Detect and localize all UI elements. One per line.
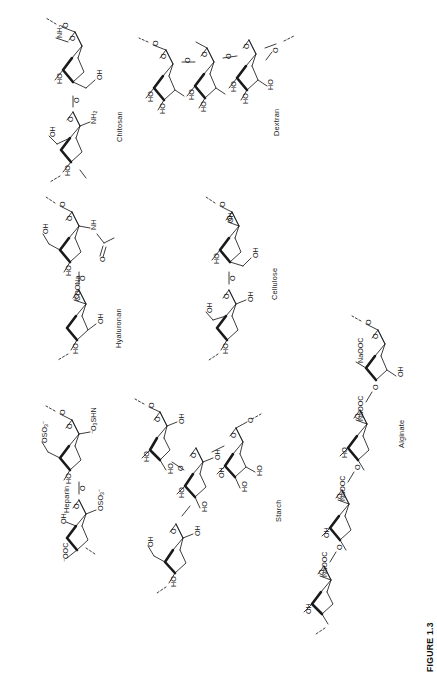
atom-label-ho: HO: [65, 473, 72, 484]
atom-label-ho: HO: [147, 91, 154, 102]
atom-label-ho: HO: [230, 81, 237, 92]
atom-label-o3shn: −O3SHN: [90, 407, 98, 434]
atom-label-o-link-c: O: [336, 544, 343, 550]
atom-label-ho-b: HO: [64, 165, 71, 176]
atom-label-oh: OH: [227, 212, 234, 223]
atom-label-oh-d: OH: [218, 467, 225, 478]
atom-label-o-carbonyl: O: [99, 256, 106, 262]
atom-label-ho-term: HO: [267, 79, 274, 90]
atom-label-ho-c: HO: [167, 463, 174, 474]
atom-label-oh: OH: [42, 223, 49, 234]
atom-label-o-exo: O: [59, 409, 66, 415]
atom-label-ho-d: HO: [241, 481, 248, 492]
alginate-skeleton: [304, 316, 396, 634]
atom-label-o-ring-d: O: [230, 432, 237, 438]
atom-label-oh-e: OH: [194, 525, 201, 536]
atom-label-o-ring-b: O: [73, 503, 80, 509]
atom-label-ho: HO: [200, 101, 207, 112]
atom-label-oh-b: OH: [49, 126, 56, 137]
atom-label-o-link: O: [184, 57, 191, 63]
chitosan-skeleton: [46, 18, 95, 182]
atom-label-coona: COONa: [74, 275, 81, 301]
atom-label-o-link: O: [79, 485, 86, 491]
atom-label-o-ring: O: [243, 43, 250, 49]
chemical-structure-linework: [0, 0, 437, 681]
structure-label-hyaluronan: Hyaluronan: [114, 308, 123, 348]
atom-label-oh: OH: [96, 69, 103, 80]
atom-label-o-ring: O: [66, 215, 73, 221]
figure-page: NH2 O O OH HO O NH2 O OH HO O O HO HO O …: [0, 0, 437, 681]
atom-label-o-exo: O: [59, 201, 66, 207]
atom-label-o-link-b: O: [354, 464, 361, 470]
atom-label-o-ring-b: O: [223, 293, 230, 299]
atom-label-oh-b: OH: [60, 513, 67, 524]
atom-label-oh-c: OH: [214, 449, 221, 460]
structure-label-chitosan: Chitosan: [115, 111, 124, 142]
atom-label-o-ring: O: [154, 416, 161, 422]
atom-label-ooc: −OOC: [62, 543, 70, 562]
structure-label-dextran: Dextran: [272, 109, 281, 136]
atom-label-ho: HO: [242, 93, 249, 104]
structure-label-cellulose: Cellulose: [270, 268, 279, 300]
starch-skeleton: [135, 399, 261, 593]
atom-label-o-link: O: [225, 53, 232, 59]
atom-label-oso3-b: OSO3−: [97, 489, 105, 511]
atom-label-oh-arm: OH: [252, 247, 259, 258]
atom-label-o-link: O: [372, 384, 379, 390]
atom-label-ho-c3: HO: [201, 501, 208, 512]
atom-label-ho-e: HO: [170, 576, 177, 587]
atom-label-ho-d2: HO: [256, 465, 263, 476]
atom-label-oh-arm-b: OH: [206, 302, 213, 313]
atom-label-oso3: OSO3−: [41, 421, 49, 443]
atom-label-ho: HO: [188, 89, 195, 100]
atom-label-o-glycosidic: O: [62, 22, 69, 28]
atom-label-o-exo: O: [152, 40, 159, 46]
atom-label-ho: HO: [143, 451, 150, 462]
atom-label-o-link: O: [229, 275, 236, 281]
atom-label-naooc-b: NaOOC: [357, 395, 364, 421]
structure-label-starch: Starch: [274, 499, 283, 522]
atom-label-o-exo: O: [365, 319, 372, 325]
atom-label-o-ring-e: O: [170, 528, 177, 534]
atom-label-o-ring-b: O: [67, 116, 74, 122]
atom-label-o-exo: O: [148, 402, 155, 408]
atom-label-ho-b: HO: [341, 447, 348, 458]
atom-label-ho-b: HO: [72, 343, 79, 354]
atom-label-nh: NH: [90, 220, 97, 230]
atom-label-o-link: O: [73, 97, 80, 103]
atom-label-oh: OH: [178, 413, 185, 424]
atom-label-oh-b: OH: [247, 291, 254, 302]
atom-label-nh2-b: NH2: [90, 111, 98, 124]
atom-label-ho: HO: [213, 253, 220, 264]
atom-label-o-ring: O: [69, 35, 76, 41]
atom-label-o-term: O: [272, 47, 279, 53]
atom-label-o-ring: O: [160, 53, 167, 59]
atom-label-o-exo-d: O: [247, 417, 254, 423]
atom-label-oh-c: OH: [323, 527, 330, 538]
atom-label-ho: HO: [56, 73, 63, 84]
atom-label-oh-d: OH: [305, 603, 312, 614]
atom-label-naooc-d: NaOOC: [321, 551, 328, 577]
figure-caption: FIGURE 1.3: [425, 622, 435, 672]
structure-label-alginate: Alginate: [397, 420, 406, 448]
atom-label-oh: OH: [397, 366, 404, 377]
atom-label-o-link: O: [177, 465, 184, 471]
atom-label-ho-b: HO: [222, 343, 229, 354]
atom-label-ho: HO: [65, 265, 72, 276]
atom-label-naooc: NaOOC: [357, 337, 364, 363]
atom-label-ho-c2: HO: [178, 487, 185, 498]
atom-label-o-ring: O: [372, 333, 379, 339]
atom-label-naooc-c: NaOOC: [339, 475, 346, 501]
atom-label-ho: HO: [159, 103, 166, 114]
atom-label-o-ring: O: [201, 51, 208, 57]
atom-label-o-ring-c: O: [190, 452, 197, 458]
atom-label-oh-b: OH: [97, 313, 104, 324]
atom-label-o-exo: O: [219, 201, 226, 207]
atom-label-oh-e2: OH: [147, 536, 154, 547]
structure-label-heparin: Heparin: [62, 486, 71, 513]
atom-label-o-ring: O: [66, 423, 73, 429]
